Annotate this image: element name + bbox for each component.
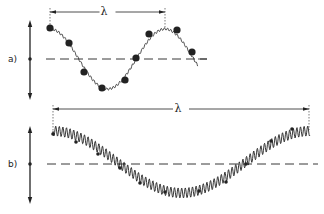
panel-b-label: b) [8, 159, 17, 169]
amplitude-center-dot [28, 162, 32, 166]
wave-diagram: a) λ b) λ [0, 0, 324, 214]
arrow-right-icon [303, 107, 309, 111]
arrow-left-icon [50, 10, 56, 14]
particle-dot [121, 76, 128, 83]
panel-b: b) λ [8, 102, 318, 204]
particle-dot [132, 54, 139, 61]
particle-dot [224, 180, 228, 184]
particle-dot [244, 162, 248, 166]
particle-dot [65, 39, 72, 46]
arrow-up-icon [28, 126, 32, 133]
panel-a: a) λ [8, 5, 207, 100]
particle-dot [98, 84, 105, 91]
particle-dot [269, 139, 273, 143]
particle-dot [188, 48, 195, 55]
panel-a-wavelength-symbol: λ [101, 5, 108, 18]
particle-dot [138, 181, 142, 185]
particle-dot [80, 68, 87, 75]
arrow-left-icon [53, 107, 59, 111]
particle-dot [96, 152, 100, 156]
panel-b-wavelength-symbol: λ [175, 102, 182, 115]
particle-dot [197, 189, 201, 193]
arrow-down-icon [28, 197, 32, 204]
particle-dot [51, 132, 55, 136]
arrow-right-icon [159, 10, 165, 14]
particle-dot [163, 190, 167, 194]
panel-a-label: a) [8, 54, 17, 64]
amplitude-center-dot [28, 57, 32, 61]
particle-dot [290, 127, 294, 131]
wave-figure: a) λ b) λ [0, 0, 324, 214]
wave-curve [53, 126, 310, 198]
particle-dot [145, 30, 152, 37]
particle-dot [46, 24, 53, 31]
particle-dot [118, 166, 122, 170]
particle-dot [173, 26, 180, 33]
arrow-up-icon [28, 20, 32, 27]
particle-dot [74, 140, 78, 144]
arrow-down-icon [28, 93, 32, 100]
